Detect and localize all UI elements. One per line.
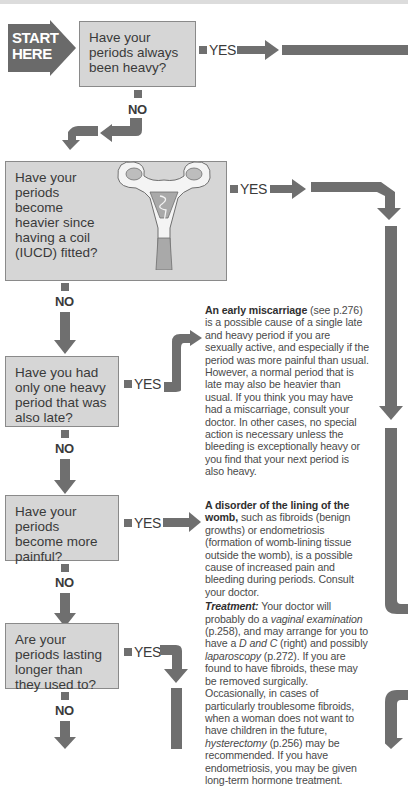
no-marker [61, 692, 69, 700]
answer-womb-disorder: A disorder of the lining of the womb, su… [205, 499, 370, 786]
arrow-down-icon [54, 737, 76, 749]
yes-path-q5 [160, 645, 188, 683]
no-arrow [60, 312, 70, 342]
answer-body: such as fibroids (benign growths) or end… [205, 511, 354, 597]
yes-label: YES [134, 515, 161, 531]
answer-ref: (see p.276) [307, 304, 362, 316]
treatment-label: Treatment: [205, 600, 259, 612]
no-label: NO [55, 294, 74, 309]
yes-arrow [270, 185, 294, 193]
no-marker [61, 564, 69, 572]
question-box-q1: Have your periods always been heavy? [79, 21, 196, 87]
arrow-down-icon [379, 406, 403, 420]
no-marker [61, 430, 69, 438]
top-rule [0, 0, 408, 4]
no-arrow [60, 459, 70, 481]
yes-label: YES [134, 644, 161, 660]
treatment-term: laparoscopy [205, 650, 261, 662]
treatment-text: (right) and possibly [277, 637, 367, 649]
answer-title: An early miscarriage [205, 304, 307, 316]
question-text: Are your periods lasting longer than the… [15, 632, 102, 692]
yes-label: YES [209, 42, 236, 58]
arrow-down-icon [54, 480, 76, 494]
arrow-right-icon [265, 40, 279, 60]
yes-path-q2-vertical [385, 226, 397, 408]
treatment-text: (p.272). If you are found to have fibroi… [205, 650, 358, 736]
no-marker [134, 90, 142, 98]
yes-path-q1 [282, 45, 408, 55]
yes-marker [124, 380, 132, 388]
question-box-q5: Are your periods lasting longer than the… [5, 623, 119, 689]
answer-body: is a possible cause of a single late and… [205, 316, 369, 477]
yes-marker [230, 185, 238, 193]
arrow-right-icon [292, 179, 306, 199]
yes-arrow [237, 46, 267, 54]
incoming-path-right [385, 690, 408, 749]
start-label: START HERE [12, 30, 52, 62]
yes-label: YES [240, 181, 267, 197]
treatment-term: vaginal examination [271, 613, 363, 625]
question-text: Have your periods always been heavy? [89, 30, 178, 75]
question-box-q3: Have you had only one heavy period that … [5, 356, 119, 427]
yes-path-q2 [311, 182, 408, 222]
yes-path-q2-elbow [385, 590, 408, 618]
no-label: NO [55, 441, 74, 456]
treatment-term: D and C [239, 637, 277, 649]
treatment-term: hysterectomy [205, 737, 267, 749]
start-here-marker: START HERE [6, 20, 76, 74]
answer-miscarriage: An early miscarriage (see p.276) is a po… [205, 304, 370, 478]
yes-path-q2-vertical-2 [385, 428, 397, 593]
no-label: NO [55, 703, 74, 718]
no-arrow [60, 593, 70, 615]
arrow-right-icon [189, 512, 201, 532]
yes-marker [124, 648, 132, 656]
no-path-q1 [52, 118, 152, 158]
yes-marker [124, 519, 132, 527]
uterus-with-iucd-icon [112, 158, 216, 270]
yes-marker [199, 46, 207, 54]
question-text: Have your periods become heavier since h… [15, 170, 107, 260]
no-label: NO [55, 575, 74, 590]
yes-label: YES [134, 376, 161, 392]
no-label: NO [128, 102, 147, 117]
yes-arrow [163, 518, 191, 527]
yes-path-q3 [164, 330, 204, 392]
question-box-q4: Have your periods become more painful? [5, 495, 119, 561]
question-text: Have you had only one heavy period that … [15, 365, 107, 425]
no-marker [61, 283, 69, 291]
question-text: Have your periods become more painful? [15, 504, 98, 564]
yes-path-q5-vertical [171, 688, 182, 749]
arrow-down-icon [54, 340, 76, 354]
